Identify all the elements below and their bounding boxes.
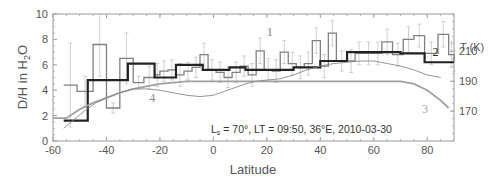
x-tick-label: 20 — [261, 144, 273, 156]
y-tick-label: 8 — [42, 33, 48, 45]
y-axis-title: D/H in H2O — [15, 45, 32, 109]
x-tick-label: 60 — [368, 144, 380, 156]
plot-border — [53, 14, 454, 141]
x-axis-title: Latitude — [230, 162, 276, 177]
series-layer — [53, 14, 456, 128]
y2-axis-title: T (K) — [460, 41, 484, 53]
series-label-4: 4 — [149, 91, 155, 105]
annotation-text: = 70°, LT = 09:50, 36°E, 2010-03-30 — [220, 123, 392, 135]
series-label-2: 2 — [433, 45, 439, 59]
y-tick-label: 4 — [42, 84, 48, 96]
y-tick-label: 10 — [36, 8, 48, 20]
x-tick-label: 80 — [421, 144, 433, 156]
chart: -60-40-200204060800246810170190210 Latit… — [0, 0, 499, 182]
y2-tick-label: 190 — [459, 75, 477, 87]
y-axis-title-main: D/H in H — [15, 60, 30, 109]
y-tick-label: 6 — [42, 59, 48, 71]
x-tick-label: 0 — [210, 144, 216, 156]
series-label-1: 1 — [267, 25, 273, 39]
series-2-line — [64, 52, 454, 121]
x-tick-label: -40 — [99, 144, 115, 156]
x-tick-label: -20 — [152, 144, 168, 156]
y2-tick-label: 170 — [459, 105, 477, 117]
y-axis-title-tail: O — [15, 45, 30, 55]
x-tick-label: 40 — [314, 144, 326, 156]
series-3-line — [53, 81, 449, 118]
series-label-3: 3 — [422, 102, 428, 116]
y-tick-label: 0 — [42, 135, 48, 147]
y-tick-label: 2 — [42, 110, 48, 122]
annotation: Ls = 70°, LT = 09:50, 36°E, 2010-03-30 — [211, 123, 392, 136]
